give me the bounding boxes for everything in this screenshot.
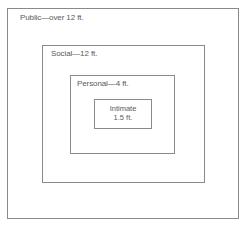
- social-zone-label: Social—12 ft.: [51, 49, 97, 58]
- intimate-zone-box: Intimate 1.5 ft.: [94, 99, 152, 129]
- intimate-zone-label: Intimate: [95, 104, 151, 113]
- personal-zone-label: Personal—4 ft.: [77, 79, 129, 88]
- public-zone-label: Public—over 12 ft.: [20, 13, 84, 22]
- intimate-zone-distance: 1.5 ft.: [95, 113, 151, 122]
